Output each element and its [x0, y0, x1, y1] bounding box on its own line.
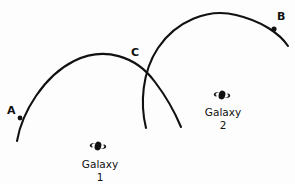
galaxy-2-number: 2 — [195, 119, 251, 132]
point-label-a: A — [7, 105, 16, 116]
galaxy-1-number: 1 — [72, 171, 128, 184]
point-b-marker — [271, 26, 276, 31]
galaxy-2-name: Galaxy — [195, 106, 251, 119]
galaxy-1-arc — [17, 54, 181, 141]
diagram-canvas: A B C Galaxy 1 Galaxy 2 — [0, 0, 295, 184]
spiral-galaxy-icon — [213, 87, 231, 103]
galaxy-arc-diagram — [0, 0, 295, 184]
point-label-b: B — [277, 11, 286, 22]
point-label-c: C — [131, 47, 139, 58]
galaxy-1-caption: Galaxy 1 — [72, 158, 128, 184]
galaxy-1-name: Galaxy — [72, 158, 128, 171]
point-a-marker — [18, 116, 23, 121]
galaxy-2-caption: Galaxy 2 — [195, 106, 251, 132]
spiral-galaxy-icon — [89, 138, 107, 154]
